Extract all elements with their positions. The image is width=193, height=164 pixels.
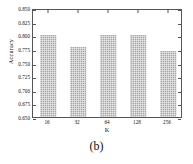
bar (70, 47, 86, 117)
bar (40, 35, 56, 117)
y-tick-label: 0.725 (8, 74, 30, 80)
x-tick-label: 128 (133, 119, 141, 125)
y-tick-mark (178, 92, 181, 93)
y-tick-mark (178, 51, 181, 52)
bar (100, 35, 116, 117)
x-tick-label: 32 (74, 119, 79, 125)
y-tick-mark (178, 78, 181, 79)
y-tick-mark (33, 65, 36, 66)
x-axis-title: K (32, 126, 182, 133)
y-tick-mark (178, 24, 181, 25)
x-tick-mark (108, 10, 109, 13)
y-tick-mark (33, 24, 36, 25)
y-tick-label: 0.650 (8, 115, 30, 121)
x-tick-mark (48, 10, 49, 13)
y-tick-mark (33, 92, 36, 93)
bar (130, 35, 146, 117)
y-tick-label: 0.750 (8, 61, 30, 67)
bar (160, 51, 176, 117)
figure-caption: (b) (0, 139, 193, 154)
y-tick-mark (178, 105, 181, 106)
x-tick-label: 16 (44, 119, 49, 125)
y-tick-label: 0.775 (8, 47, 30, 53)
x-tick-mark (138, 10, 139, 13)
y-tick-mark (33, 37, 36, 38)
x-tick-mark (168, 10, 169, 13)
y-tick-mark (33, 105, 36, 106)
x-tick-mark (78, 10, 79, 13)
plot-area (32, 9, 182, 118)
x-tick-label: 64 (104, 119, 109, 125)
y-tick-mark (178, 65, 181, 66)
y-tick-label: 0.675 (8, 101, 30, 107)
y-tick-mark (33, 10, 36, 11)
y-tick-label: 0.800 (8, 33, 30, 39)
y-tick-mark (178, 10, 181, 11)
y-axis-tick-labels: 0.6500.6750.7000.7250.7500.7750.8000.825… (8, 9, 30, 118)
y-tick-label: 0.825 (8, 20, 30, 26)
y-tick-mark (178, 37, 181, 38)
y-tick-mark (33, 78, 36, 79)
y-tick-mark (33, 51, 36, 52)
x-tick-label: 256 (163, 119, 171, 125)
y-tick-label: 0.850 (8, 6, 30, 12)
y-tick-label: 0.700 (8, 88, 30, 94)
figure-panel: Accuracy 0.6500.6750.7000.7250.7500.7750… (0, 0, 193, 164)
